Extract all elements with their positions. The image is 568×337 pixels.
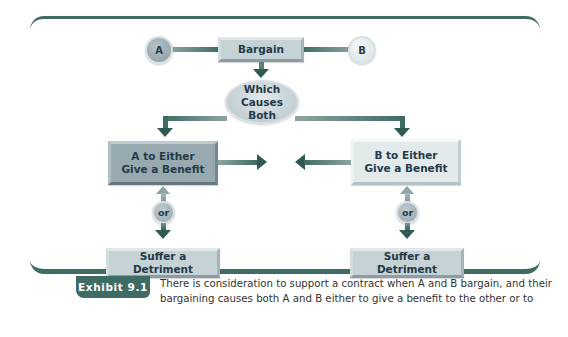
node-b-benefit-line1: B to Either	[364, 149, 447, 162]
node-a-detriment: Suffer a Detriment	[106, 248, 220, 278]
connector-branch-left	[163, 116, 227, 121]
connector-b-center	[304, 160, 351, 165]
node-b-benefit-line2: Give a Benefit	[364, 162, 447, 175]
node-party-b-label: B	[358, 45, 366, 56]
node-or-right-label: or	[402, 207, 413, 218]
node-party-a: A	[145, 36, 173, 64]
node-or-left: or	[152, 201, 175, 224]
node-b-detriment-label: Suffer a Detriment	[353, 250, 461, 276]
node-b-detriment: Suffer a Detriment	[350, 248, 464, 278]
caption-line-1: There is consideration to support a cont…	[160, 277, 560, 292]
node-which-causes-line2: Both	[227, 109, 297, 122]
arrow-down-icon	[157, 128, 173, 137]
node-party-a-label: A	[155, 45, 163, 56]
exhibit-caption: There is consideration to support a cont…	[160, 277, 560, 306]
node-which-causes-line1: Which Causes	[227, 83, 297, 109]
node-or-left-label: or	[158, 207, 169, 218]
node-b-benefit: B to Either Give a Benefit	[351, 139, 461, 185]
arrow-down-icon	[253, 69, 269, 78]
connector-a-bargain	[170, 47, 220, 52]
caption-line-2: bargaining causes both A and B either to…	[160, 292, 560, 307]
connector-a-center	[218, 160, 258, 165]
node-bargain: Bargain	[218, 37, 304, 62]
node-bargain-label: Bargain	[238, 43, 284, 56]
node-a-benefit-line2: Give a Benefit	[121, 163, 204, 176]
node-a-benefit: A to Either Give a Benefit	[108, 141, 218, 185]
arrow-down-icon	[394, 128, 410, 137]
node-which-causes-both: Which Causes Both	[225, 80, 299, 124]
arrow-down-icon	[399, 230, 415, 239]
node-a-benefit-line1: A to Either	[121, 150, 204, 163]
connector-branch-right	[295, 116, 405, 121]
exhibit-label: Exhibit 9.1	[76, 276, 150, 298]
arrow-right-icon	[257, 154, 267, 170]
node-a-detriment-label: Suffer a Detriment	[109, 250, 217, 276]
arrow-down-icon	[155, 230, 171, 239]
exhibit-label-text: Exhibit 9.1	[78, 281, 148, 293]
connector-bargain-b	[302, 47, 352, 52]
node-or-right: or	[396, 201, 419, 224]
node-party-b: B	[348, 36, 376, 64]
